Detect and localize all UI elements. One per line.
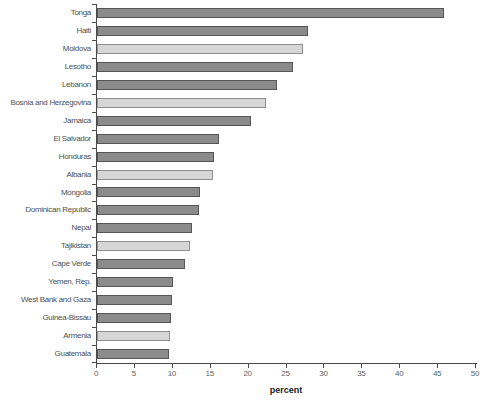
bar	[97, 116, 251, 126]
bar	[97, 187, 200, 197]
x-tick-label: 35	[350, 369, 372, 378]
category-label: Yemen, Rep.	[0, 273, 91, 291]
category-label: Haiti	[0, 22, 91, 40]
bar	[97, 98, 266, 108]
bar	[97, 134, 219, 144]
bar	[97, 80, 277, 90]
bar	[97, 295, 172, 305]
category-label: Cape Verde	[0, 255, 91, 273]
x-tick	[134, 364, 135, 368]
x-tick-label: 40	[388, 369, 410, 378]
x-tick-label: 45	[426, 369, 448, 378]
category-label: Mongolia	[0, 184, 91, 202]
category-label: Lebanon	[0, 76, 91, 94]
x-tick-label: 15	[199, 369, 221, 378]
x-tick	[172, 364, 173, 368]
bar	[97, 26, 308, 36]
category-label: El Salvador	[0, 130, 91, 148]
bar	[97, 259, 185, 269]
bar	[97, 241, 190, 251]
category-label: Jamaica	[0, 112, 91, 130]
x-tick-label: 10	[161, 369, 183, 378]
x-tick	[475, 364, 476, 368]
x-tick	[323, 364, 324, 368]
horizontal-bar-chart: TongaHaitiMoldovaLesothoLebanonBosnia an…	[0, 0, 485, 404]
x-tick	[437, 364, 438, 368]
x-tick	[248, 364, 249, 368]
bar	[97, 331, 170, 341]
bar	[97, 8, 444, 18]
x-tick-label: 5	[123, 369, 145, 378]
bar	[97, 313, 171, 323]
category-label: Honduras	[0, 148, 91, 166]
category-label: Guatemala	[0, 345, 91, 363]
x-tick	[210, 364, 211, 368]
x-tick	[361, 364, 362, 368]
x-tick-label: 20	[237, 369, 259, 378]
x-tick-label: 25	[275, 369, 297, 378]
x-tick-label: 30	[312, 369, 334, 378]
category-label: Albania	[0, 166, 91, 184]
bar	[97, 277, 173, 287]
bar	[97, 152, 214, 162]
category-label: Guinea-Bissau	[0, 309, 91, 327]
category-label: Lesotho	[0, 58, 91, 76]
category-label: Armenia	[0, 327, 91, 345]
category-label: West Bank and Gaza	[0, 291, 91, 309]
x-tick	[399, 364, 400, 368]
bar	[97, 205, 199, 215]
x-tick	[286, 364, 287, 368]
category-label: Dominican Republic	[0, 201, 91, 219]
category-label: Tajikistan	[0, 237, 91, 255]
category-label: Bosnia and Herzegovina	[0, 94, 91, 112]
x-tick-label: 50	[464, 369, 485, 378]
bar	[97, 62, 293, 72]
bar	[97, 349, 169, 359]
x-tick	[96, 364, 97, 368]
category-label: Nepal	[0, 219, 91, 237]
category-label: Moldova	[0, 40, 91, 58]
x-axis-title: percent	[96, 385, 476, 395]
bar	[97, 223, 192, 233]
bar	[97, 44, 303, 54]
x-tick-label: 0	[85, 369, 107, 378]
bar	[97, 170, 213, 180]
category-label: Tonga	[0, 4, 91, 22]
y-axis-line	[96, 4, 97, 363]
x-axis-line	[96, 363, 477, 364]
